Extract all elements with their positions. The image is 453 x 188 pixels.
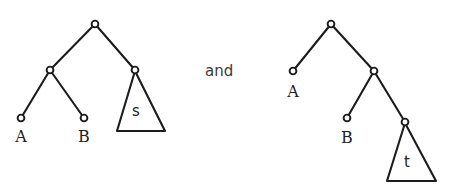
edge-inner-to-leaf-a <box>21 70 50 118</box>
node-root-right <box>328 21 335 28</box>
subtree-triangle-s: s <box>117 71 165 131</box>
node-inner-right <box>371 68 378 75</box>
node-leaf-a-left <box>18 115 25 122</box>
node-root-left <box>92 21 99 28</box>
right-tree-nodes <box>290 21 409 126</box>
label-leaf-b-right: B <box>341 128 353 147</box>
left-tree-labels: A B <box>14 127 90 146</box>
edge-root-to-inner <box>50 24 95 70</box>
edge-inner-to-leaf-b <box>50 70 84 118</box>
edge-inner-to-subtree-t <box>374 71 405 122</box>
label-leaf-a-right: A <box>286 82 299 101</box>
right-tree-edges <box>293 24 405 122</box>
label-leaf-a-left: A <box>14 127 27 146</box>
node-leaf-b-left <box>81 115 88 122</box>
diagram-canvas: s A B and <box>0 0 453 188</box>
node-leaf-b-right <box>344 115 351 122</box>
node-subtree-s-left <box>132 67 139 74</box>
node-inner-left <box>47 67 54 74</box>
subtree-triangle-t: t <box>387 123 436 181</box>
triangle-s-shape <box>117 71 165 131</box>
right-tree: t A B <box>286 21 436 181</box>
left-tree: s A B <box>14 21 165 146</box>
tree-pair-diagram: s A B and <box>0 0 453 188</box>
left-tree-nodes <box>18 21 139 122</box>
edge-root-to-subtree-s <box>95 24 135 70</box>
triangle-t-label: t <box>404 153 410 171</box>
conjunction-text: and <box>205 62 233 80</box>
edge-root-to-leaf-a <box>293 24 331 71</box>
right-tree-labels: A B <box>286 82 353 147</box>
triangle-t-shape <box>387 123 436 181</box>
node-subtree-t-right <box>402 119 409 126</box>
edge-root-to-inner-right <box>331 24 374 71</box>
left-tree-edges <box>21 24 135 118</box>
edge-inner-to-leaf-b-right <box>347 71 374 118</box>
triangle-s-label: s <box>132 102 140 120</box>
label-leaf-b-left: B <box>78 127 90 146</box>
node-leaf-a-right <box>290 68 297 75</box>
